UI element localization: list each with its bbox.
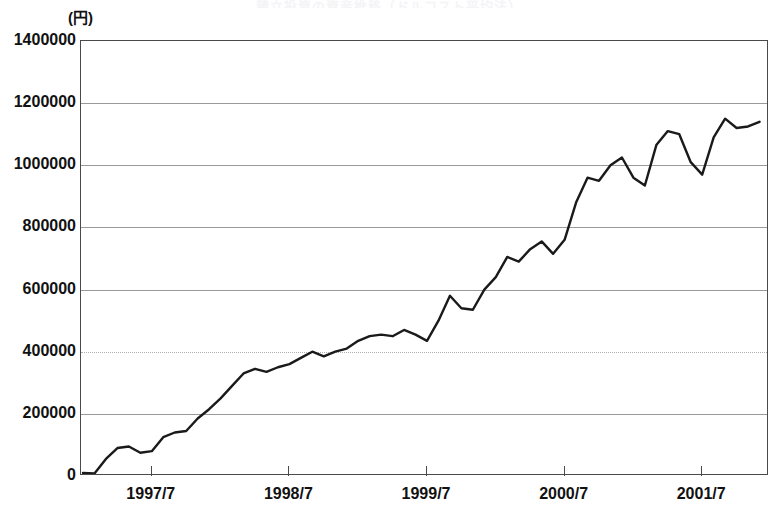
x-axis-tick-label: 1999/7: [402, 486, 451, 502]
line-series: [81, 41, 768, 475]
series-polyline: [83, 119, 760, 474]
plot-area: [80, 40, 768, 475]
chart-title: 積立投資の資産推移（ドルコスト平均法）: [0, 0, 778, 8]
y-axis-tick-label: 600000: [2, 281, 76, 297]
x-axis-tick-label: 1997/7: [126, 486, 175, 502]
x-axis-tick-mark: [151, 466, 152, 476]
y-axis-tick-label: 1000000: [2, 156, 76, 172]
x-axis-tick-mark: [701, 466, 702, 476]
y-axis-tick-label: 1200000: [2, 94, 76, 110]
y-axis-tick-label: 800000: [2, 218, 76, 234]
x-axis-tick-mark: [288, 466, 289, 476]
y-axis-tick-labels: 0200000400000600000800000100000012000001…: [0, 0, 76, 524]
y-axis-tick-label: 0: [2, 467, 76, 483]
y-axis-tick-label: 400000: [2, 343, 76, 359]
x-axis-tick-label: 2000/7: [539, 486, 588, 502]
x-axis-tick-mark: [564, 466, 565, 476]
y-axis-tick-label: 1400000: [2, 32, 76, 48]
x-axis-tick-mark: [426, 466, 427, 476]
y-axis-tick-label: 200000: [2, 405, 76, 421]
x-axis-tick-label: 2001/7: [677, 486, 726, 502]
x-axis-tick-label: 1998/7: [264, 486, 313, 502]
chart-container: 積立投資の資産推移（ドルコスト平均法） (円) 0200000400000600…: [0, 0, 778, 524]
